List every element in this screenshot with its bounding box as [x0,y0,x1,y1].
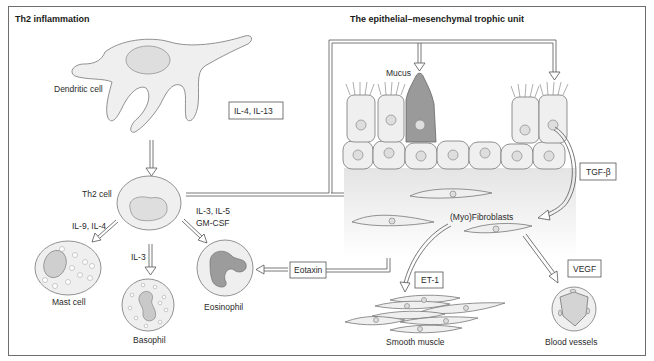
il3-label: IL-3 [131,252,146,262]
th2-cell-icon [117,176,181,230]
mucus-label: Mucus [386,68,411,78]
il9-il4-label: IL-9, IL-4 [72,221,106,231]
th2-cell-label: Th2 cell [82,189,112,199]
smooth-muscle-icon [345,295,505,333]
eosinophil-label: Eosinophil [204,302,243,312]
basophil-icon [122,279,174,331]
et1-label: ET-1 [421,275,439,285]
dendritic-cell-label: Dendritic cell [54,84,103,94]
gmcsf-label: GM-CSF [196,218,230,228]
mast-cell-label: Mast cell [52,297,86,307]
fibroblasts-label: (Myo)Fibroblasts [450,212,513,222]
blood-vessels-label: Blood vessels [545,337,597,347]
th2-to-basophil-arrow [145,244,156,275]
left-panel-title: Th2 inflammation [15,14,90,24]
il4-il13-label: IL-4, IL-13 [234,106,273,116]
mast-cell-icon [35,241,101,295]
diagram-canvas: Th2 inflammation The epithelial–mesenchy… [0,0,654,361]
dc-to-th2-arrow [146,140,157,176]
blood-vessel-icon [552,287,596,331]
vegf-label: VEGF [573,264,596,274]
basophil-label: Basophil [133,335,166,345]
il3-il5-label: IL-3, IL-5 [196,206,230,216]
eotaxin-label: Eotaxin [294,265,323,275]
smooth-muscle-label: Smooth muscle [386,337,445,347]
eosinophil-icon [197,240,253,296]
epithelium-icon [343,73,568,169]
tgfb-label: TGF-β [586,167,611,177]
right-panel-title: The epithelial–mesenchymal trophic unit [350,14,524,24]
